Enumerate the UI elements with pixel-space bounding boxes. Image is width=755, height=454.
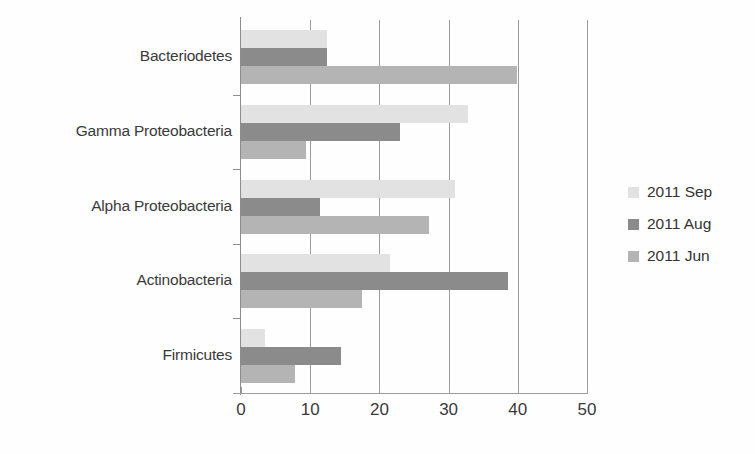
bar (241, 180, 455, 198)
category-tick (233, 95, 241, 96)
bar-group (241, 105, 587, 159)
legend-swatch-icon (628, 251, 639, 262)
bar (241, 48, 327, 66)
gridline-50 (587, 20, 588, 393)
legend-swatch-icon (628, 219, 639, 230)
value-tick-10 (310, 387, 311, 394)
value-axis-label: 20 (349, 400, 409, 420)
legend-item[interactable]: 2011 Sep (628, 176, 748, 208)
category-tick (233, 318, 241, 319)
bar (241, 365, 295, 383)
bar (241, 329, 265, 347)
legend-swatch-icon (628, 187, 639, 198)
value-axis-label: 40 (488, 400, 548, 420)
category-label: Gamma Proteobacteria (7, 122, 232, 140)
bar-chart: BacteriodetesGamma ProteobacteriaAlpha P… (0, 0, 755, 454)
bar (241, 347, 341, 365)
legend-item[interactable]: 2011 Aug (628, 208, 748, 240)
value-tick-40 (518, 387, 519, 394)
value-tick-20 (379, 387, 380, 394)
chart-legend: 2011 Sep2011 Aug2011 Jun (628, 176, 748, 272)
value-axis-labels: 01020304050 (241, 400, 587, 430)
bar (241, 66, 517, 84)
category-label: Alpha Proteobacteria (7, 197, 232, 215)
legend-item[interactable]: 2011 Jun (628, 240, 748, 272)
bar (241, 123, 400, 141)
bar-group (241, 329, 587, 383)
value-tick-50 (587, 387, 588, 394)
category-axis-line (233, 393, 587, 394)
bar (241, 272, 508, 290)
bar (241, 105, 468, 123)
category-axis-labels: BacteriodetesGamma ProteobacteriaAlpha P… (0, 20, 232, 393)
bar-group (241, 30, 587, 84)
value-tick-0 (241, 387, 242, 394)
plot-area (241, 20, 587, 393)
category-label: Bacteriodetes (7, 47, 232, 65)
bar (241, 216, 429, 234)
legend-label: 2011 Sep (647, 183, 712, 201)
bar (241, 141, 306, 159)
value-tick-30 (449, 387, 450, 394)
bar-group (241, 254, 587, 308)
bar (241, 254, 390, 272)
value-axis-label: 30 (419, 400, 479, 420)
bar (241, 30, 327, 48)
value-axis-label: 10 (280, 400, 340, 420)
category-label: Firmicutes (7, 346, 232, 364)
value-axis-label: 50 (557, 400, 617, 420)
category-tick (233, 244, 241, 245)
category-label: Actinobacteria (7, 271, 232, 289)
legend-label: 2011 Jun (647, 247, 710, 265)
bar (241, 198, 320, 216)
value-axis-label: 0 (211, 400, 271, 420)
bar (241, 290, 362, 308)
legend-label: 2011 Aug (647, 215, 711, 233)
category-tick (233, 169, 241, 170)
bar-group (241, 180, 587, 234)
